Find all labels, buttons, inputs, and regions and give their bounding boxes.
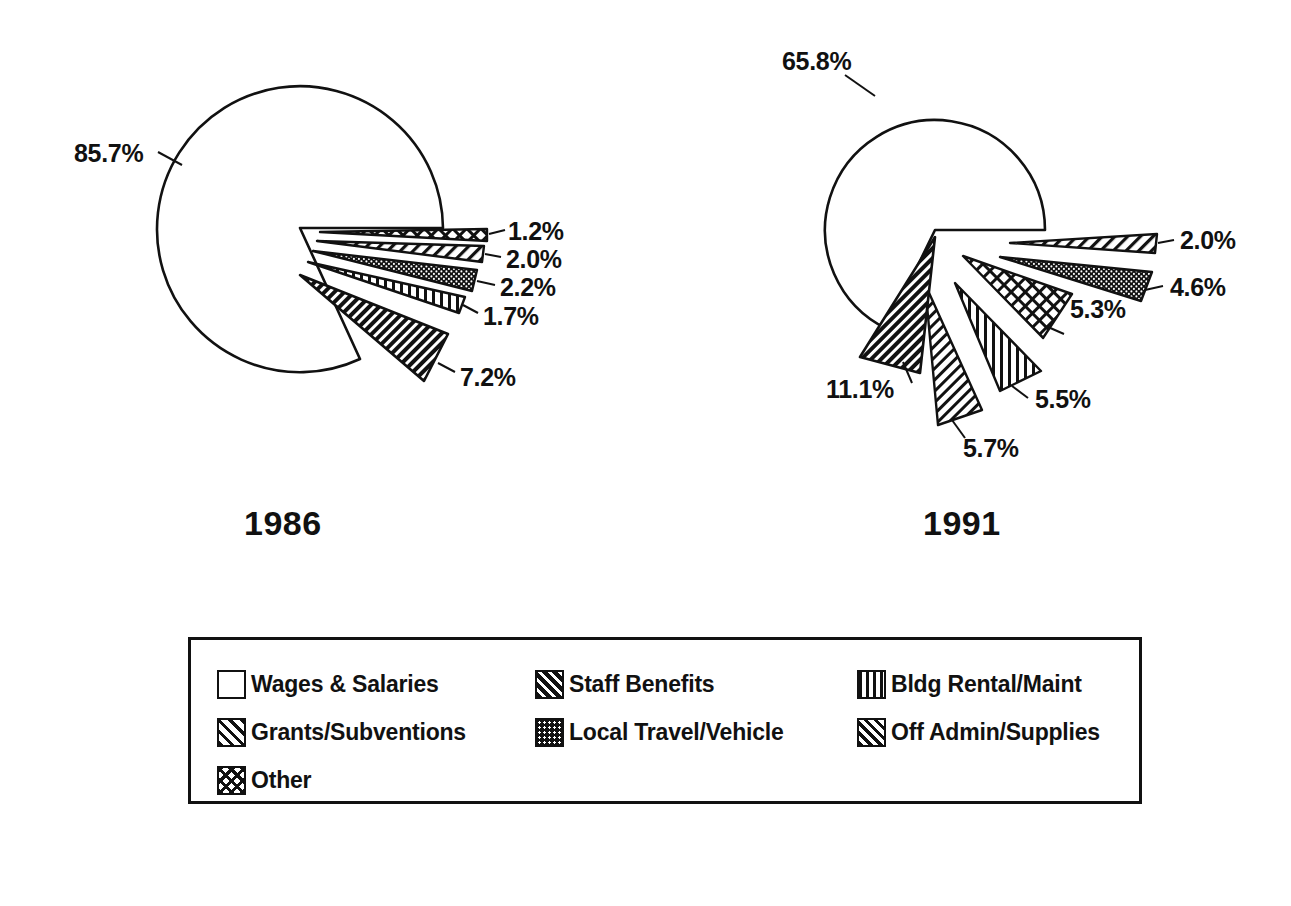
year-label-1986: 1986 (244, 504, 322, 542)
swatch-other-icon (217, 766, 246, 795)
legend-item-grants-subventions[interactable]: Grants/Subventions (217, 718, 535, 747)
leader-1991-other (1048, 327, 1064, 334)
legend: Wages & Salaries Staff Benefits Bldg Ren… (188, 637, 1142, 804)
leader-1991-grants (1158, 240, 1174, 243)
swatch-local-travel-vehicle-icon (535, 718, 564, 747)
chart-canvas: 85.7% 1.2% 2.0% 2.2% 1.7% 7.2% 1986 (0, 0, 1291, 906)
legend-item-staff-benefits[interactable]: Staff Benefits (535, 670, 857, 699)
pct-1986-bldg-rental: 1.7% (483, 302, 539, 330)
swatch-wages-salaries-icon (217, 670, 246, 699)
leader-1986-grants (485, 254, 501, 257)
pct-1991-staff-benefits: 11.1% (826, 375, 894, 403)
leader-1986-staff-benefits (438, 363, 455, 372)
pct-1991-bldg-rental: 5.5% (1035, 385, 1091, 413)
swatch-grants-subventions-icon (217, 718, 246, 747)
legend-label-wages-salaries: Wages & Salaries (251, 671, 439, 698)
pct-1991-wages: 65.8% (782, 47, 851, 75)
slice-1986-other[interactable] (320, 229, 487, 241)
legend-label-bldg-rental-maint: Bldg Rental/Maint (891, 671, 1082, 698)
slice-1991-grants[interactable] (1010, 234, 1157, 253)
legend-item-off-admin-supplies[interactable]: Off Admin/Supplies (857, 718, 1117, 747)
leader-1986-local-travel (477, 281, 495, 285)
leader-1991-wages (845, 75, 875, 96)
legend-grid: Wages & Salaries Staff Benefits Bldg Ren… (217, 660, 1117, 804)
legend-label-grants-subventions: Grants/Subventions (251, 719, 466, 746)
legend-item-other[interactable]: Other (217, 766, 535, 795)
legend-item-local-travel-vehicle[interactable]: Local Travel/Vehicle (535, 718, 857, 747)
swatch-bldg-rental-maint-icon (857, 670, 886, 699)
swatch-off-admin-supplies-icon (857, 718, 886, 747)
legend-item-wages-salaries[interactable]: Wages & Salaries (217, 670, 535, 699)
pct-1991-grants: 2.0% (1180, 226, 1236, 254)
pie-chart-1986: 85.7% 1.2% 2.0% 2.2% 1.7% 7.2% 1986 (74, 86, 564, 542)
pie-chart-1991: 65.8% 2.0% 4.6% 5.3% 5.5% 5.7% 11.1% 199… (782, 47, 1236, 542)
pct-1986-local-travel: 2.2% (500, 273, 556, 301)
legend-label-other: Other (251, 767, 311, 794)
pct-1986-wages: 85.7% (74, 139, 143, 167)
pct-1991-off-admin: 5.7% (963, 434, 1019, 462)
legend-item-bldg-rental-maint[interactable]: Bldg Rental/Maint (857, 670, 1117, 699)
legend-label-off-admin-supplies: Off Admin/Supplies (891, 719, 1100, 746)
pct-1991-local-travel: 4.6% (1170, 273, 1226, 301)
swatch-staff-benefits-icon (535, 670, 564, 699)
pct-1986-other: 1.2% (508, 217, 564, 245)
leader-1991-bldg-rental (1012, 386, 1028, 398)
pct-1986-staff-benefits: 7.2% (460, 363, 516, 391)
pct-1986-grants: 2.0% (506, 245, 562, 273)
pct-1991-other: 5.3% (1070, 295, 1126, 323)
year-label-1991: 1991 (923, 504, 1001, 542)
leader-1986-other (489, 230, 505, 234)
legend-label-staff-benefits: Staff Benefits (569, 671, 714, 698)
legend-label-local-travel-vehicle: Local Travel/Vehicle (569, 719, 784, 746)
leader-1986-bldg-rental (463, 305, 478, 313)
